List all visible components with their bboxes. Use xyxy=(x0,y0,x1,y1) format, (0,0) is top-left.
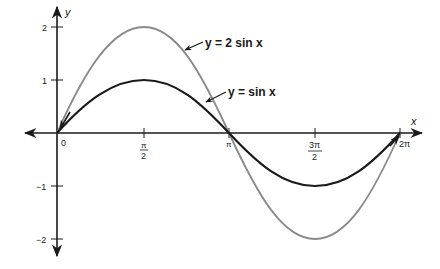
x-tick-pi: π xyxy=(226,140,232,149)
y-tick-1: 1 xyxy=(42,76,47,86)
x-tick-0: 0 xyxy=(61,138,66,148)
y-axis-label: y xyxy=(64,6,72,18)
x-tick-pi-half-num: π xyxy=(141,141,147,150)
x-tick-3pi-half-num: 3π xyxy=(309,140,320,150)
x-tick-3pi-half-den: 2 xyxy=(312,152,317,162)
x-tick-pi-half-den: 2 xyxy=(141,151,146,161)
chart-canvas: y = 2 sin x y = sin x y x 0 π 2 π 3π 2 2… xyxy=(0,0,440,269)
annotation-2sinx: y = 2 sin x xyxy=(205,36,263,50)
annot-arrow-2sinx xyxy=(185,42,203,50)
y-tick-2: 2 xyxy=(42,23,47,33)
x-axis-label: x xyxy=(410,115,417,127)
annotation-sinx: y = sin x xyxy=(228,85,276,99)
sine-chart: y = 2 sin x y = sin x y x 0 π 2 π 3π 2 2… xyxy=(0,0,440,269)
x-tick-2pi: 2π xyxy=(399,139,410,149)
y-tick-m2: −2 xyxy=(36,235,46,245)
y-tick-m1: −1 xyxy=(36,182,46,192)
